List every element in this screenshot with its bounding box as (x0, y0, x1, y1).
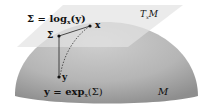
point-sigma-label: Σ (47, 30, 53, 40)
manifold-diagram: Σ = logx(y) x Σ y y = expx(Σ) TxM M (0, 0, 207, 110)
point-y-label: y (61, 72, 68, 82)
manifold-label: M (157, 86, 169, 97)
exp-map-label: y = expx(Σ) (43, 86, 103, 98)
point-sigma (57, 34, 60, 37)
point-x (88, 24, 91, 27)
log-map-label: Σ = logx(y) (27, 13, 86, 25)
point-y (57, 75, 60, 78)
tangent-space-label: TxM (140, 9, 159, 20)
point-x-label: x (95, 20, 101, 30)
